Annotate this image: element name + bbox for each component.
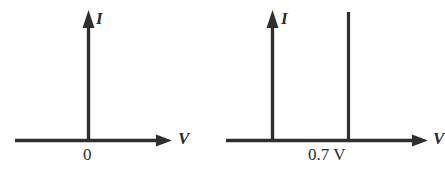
v-axis-arrowhead-icon — [412, 135, 428, 147]
i-axis-ideal — [83, 10, 95, 142]
axis-label-voltage-ideal: V — [178, 130, 189, 147]
diode-iv-figure: I V 0 I V 0.7 V — [0, 0, 445, 176]
i-axis-arrowhead-icon — [267, 10, 279, 28]
axis-label-voltage-real: V — [433, 130, 444, 147]
threshold-voltage-label: 0.7 V — [308, 146, 345, 163]
v-axis-arrowhead-icon — [156, 135, 172, 147]
panel-real-diode: I V 0.7 V — [222, 0, 445, 176]
origin-label-ideal: 0 — [83, 146, 92, 163]
axis-label-current-real: I — [281, 10, 288, 27]
i-axis-real — [267, 10, 279, 142]
v-axis-ideal — [15, 135, 172, 147]
i-axis-arrowhead-icon — [83, 10, 95, 28]
axis-label-current-ideal: I — [96, 10, 103, 27]
ideal-diode-plot — [0, 0, 222, 176]
panel-ideal-diode: I V 0 — [0, 0, 222, 176]
